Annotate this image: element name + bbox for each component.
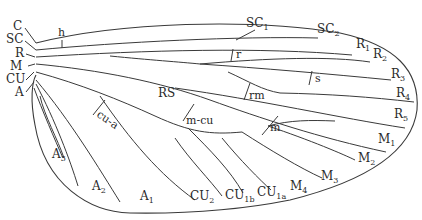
label-M3: M3 (321, 169, 338, 185)
label-SC1: SC1 (246, 16, 269, 32)
label-R4: R4 (396, 86, 410, 102)
label-A3: A3 (51, 147, 66, 163)
label-C: C (13, 19, 22, 33)
crossvein-s (309, 71, 312, 85)
label-CU: CU (6, 72, 25, 86)
label-R5: R5 (394, 107, 408, 123)
base-labels: C SC R M CU A (6, 19, 25, 99)
crossvein-labels: h r s rm m m-cu cu-a (58, 26, 321, 134)
wing-venation-diagram: C SC R M CU A h r s rm m m-cu cu-a RS SC… (0, 0, 422, 220)
label-RS: RS (158, 86, 175, 100)
label-cu-a: cu-a (94, 108, 121, 132)
label-CU2: CU2 (190, 189, 214, 205)
label-A1: A1 (139, 189, 154, 205)
label-A2: A2 (91, 179, 106, 195)
label-A: A (14, 85, 24, 99)
label-m: m (270, 121, 281, 134)
label-CU1a: CU1a (257, 185, 286, 201)
wing-outline (32, 24, 417, 213)
label-R: R (15, 46, 25, 60)
label-M2: M2 (358, 151, 375, 167)
base-leaders (25, 28, 36, 92)
label-h: h (58, 26, 65, 39)
label-r: r (236, 48, 242, 61)
label-rm: rm (249, 89, 265, 102)
label-R1: R1 (356, 37, 370, 53)
label-R3: R3 (391, 67, 405, 83)
label-SC: SC (6, 32, 23, 46)
label-m-cu: m-cu (186, 114, 213, 127)
label-M1: M1 (378, 132, 395, 148)
longitudinal-veins (34, 30, 414, 202)
label-s: s (315, 72, 321, 85)
label-M: M (10, 59, 22, 73)
label-M4: M4 (290, 179, 307, 195)
label-CU1b: CU1b (225, 188, 255, 204)
label-SC2: SC2 (317, 22, 340, 38)
